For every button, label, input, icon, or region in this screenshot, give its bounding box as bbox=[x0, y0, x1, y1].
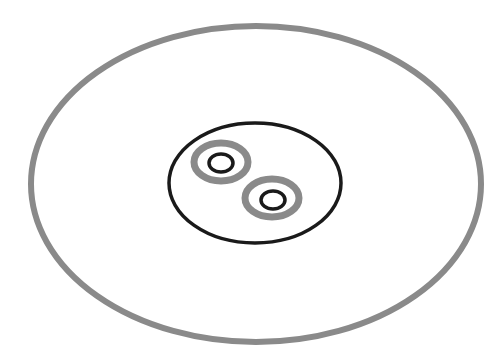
background bbox=[0, 0, 501, 355]
nested-ellipse-diagram bbox=[0, 0, 501, 355]
